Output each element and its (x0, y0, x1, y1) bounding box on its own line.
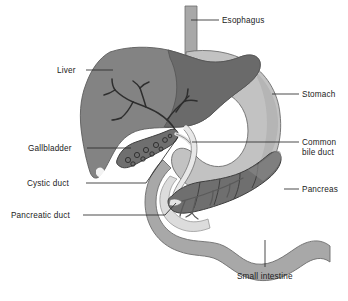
label-common-bile-duct: Common bile duct (302, 138, 348, 157)
label-stomach: Stomach (302, 90, 335, 100)
label-liver: Liver (57, 66, 76, 76)
label-gallbladder: Gallbladder (28, 144, 72, 154)
label-small-intestine: Small intestine (237, 272, 293, 282)
anatomy-diagram: Esophagus Liver Stomach Gallbladder Comm… (0, 0, 348, 301)
label-pancreas: Pancreas (302, 185, 338, 195)
label-esophagus: Esophagus (222, 16, 264, 26)
label-pancreatic-duct: Pancreatic duct (11, 211, 70, 221)
label-cystic-duct: Cystic duct (27, 179, 69, 189)
